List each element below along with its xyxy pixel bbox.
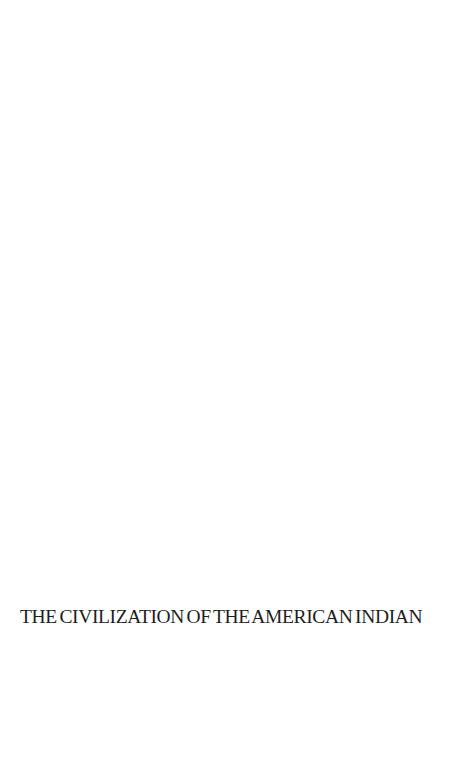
- book-half-title-page: THE CIVILIZATION OF THE AMERICAN INDIAN: [0, 0, 470, 770]
- series-title: THE CIVILIZATION OF THE AMERICAN INDIAN: [20, 606, 450, 628]
